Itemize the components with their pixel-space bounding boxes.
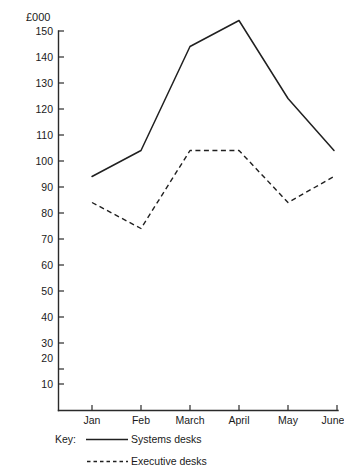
y-tick-label: 100 (35, 155, 53, 167)
chart-legend: Key: Systems desks Executive desks (55, 433, 207, 467)
series-line-systems-desks (92, 21, 334, 177)
chart-page: £000 150 140 130 120 1 (0, 0, 344, 471)
y-axis-ticks (59, 31, 65, 384)
x-tick-label-march: March (175, 414, 204, 426)
y-tick-label: 80 (41, 207, 53, 219)
y-tick-label: 120 (35, 103, 53, 115)
y-tick-label: 30 (41, 337, 53, 349)
legend-label-systems-desks: Systems desks (131, 433, 202, 445)
y-tick-label: 10 (41, 378, 53, 390)
x-tick-label-jan: Jan (84, 414, 101, 426)
y-tick-label: 110 (36, 129, 53, 141)
x-tick-label-april: April (228, 414, 249, 426)
y-tick-label: 50 (41, 285, 53, 297)
series-line-executive-desks (92, 151, 334, 229)
y-tick-label: 60 (41, 259, 53, 271)
y-tick-label: 40 (41, 311, 53, 323)
x-tick-label-may: May (278, 414, 299, 426)
y-tick-label: 140 (35, 51, 53, 63)
x-axis-tick-labels: Jan Feb March April May June (84, 414, 344, 426)
legend-key-label: Key: (55, 433, 76, 445)
x-axis-ticks (92, 405, 337, 411)
y-tick-label: 70 (41, 233, 53, 245)
y-tick-label: 150 (35, 25, 53, 37)
y-tick-label: 90 (41, 181, 53, 193)
y-axis-tick-labels: 150 140 130 120 110 100 90 80 70 60 50 4… (35, 25, 53, 390)
y-tick-label: 130 (35, 77, 53, 89)
x-tick-label-june: June (322, 414, 344, 426)
line-chart: £000 150 140 130 120 1 (0, 0, 344, 471)
legend-label-executive-desks: Executive desks (131, 455, 207, 467)
y-axis-unit-label: £000 (26, 11, 50, 23)
x-tick-label-feb: Feb (132, 414, 150, 426)
y-tick-label: 20 (41, 352, 53, 364)
